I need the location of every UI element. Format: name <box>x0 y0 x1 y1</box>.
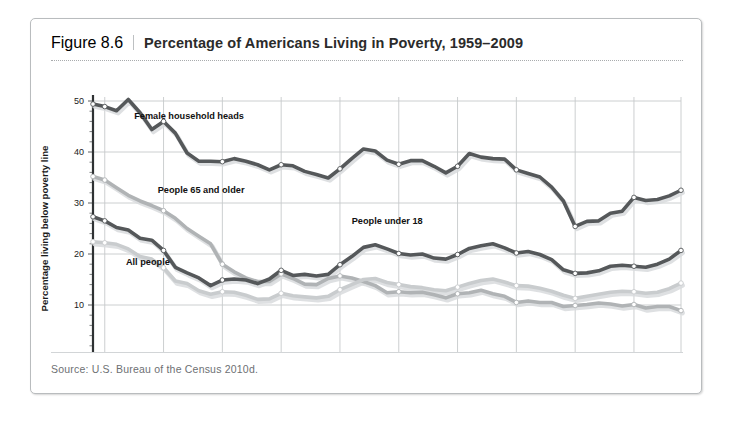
series-marker <box>455 252 460 257</box>
y-tick-label: 40 <box>74 147 84 157</box>
series-marker <box>220 262 225 267</box>
series-marker <box>632 195 637 200</box>
figure-card: Figure 8.6 Percentage of Americans Livin… <box>30 18 702 394</box>
y-axis-title: Percentage living below poverty line <box>39 146 50 312</box>
series-marker <box>279 162 284 167</box>
series-marker <box>455 285 460 290</box>
header-divider <box>133 35 134 50</box>
series-marker <box>338 262 343 267</box>
series-marker <box>279 291 284 296</box>
series-shadow <box>95 102 683 229</box>
series-marker <box>679 188 684 193</box>
series-marker <box>679 308 684 313</box>
y-tick-label: 50 <box>74 96 84 106</box>
series-label: Female household heads <box>134 111 244 121</box>
series-line <box>93 176 681 310</box>
series-marker <box>455 164 460 169</box>
chart-svg: Female household headsPeople 65 and olde… <box>31 67 703 352</box>
series-marker <box>338 287 343 292</box>
series-label: People under 18 <box>352 216 423 226</box>
source-note: Source: U.S. Bureau of the Census 2010d. <box>51 363 258 375</box>
series-marker <box>396 289 401 294</box>
series-marker <box>161 208 166 213</box>
figure-header: Figure 8.6 Percentage of Americans Livin… <box>51 33 523 52</box>
series-label: People 65 and older <box>158 185 245 195</box>
series-marker <box>220 278 225 283</box>
series-marker <box>632 289 637 294</box>
series-annotations: Female household headsPeople 65 and olde… <box>126 111 423 267</box>
series-marker <box>514 251 519 256</box>
series-marker <box>338 167 343 172</box>
series-marker <box>91 102 96 107</box>
series-marker <box>91 174 96 179</box>
series-marker <box>514 283 519 288</box>
series-marker <box>102 178 107 183</box>
header-dotted-rule <box>51 60 683 61</box>
series-marker <box>679 248 684 253</box>
series-marker <box>573 303 578 308</box>
series-marker <box>91 214 96 219</box>
series-marker <box>514 300 519 305</box>
series-paths <box>93 99 681 310</box>
series-marker <box>102 219 107 224</box>
series-marker <box>338 274 343 279</box>
y-tick-label: 30 <box>74 198 84 208</box>
series-marker <box>573 296 578 301</box>
series-marker <box>573 271 578 276</box>
page-title: Percentage of Americans Living in Povert… <box>144 35 523 51</box>
series-marker <box>102 240 107 245</box>
figure-number: Figure 8.6 <box>51 34 123 52</box>
series-label: All people <box>126 257 170 267</box>
footer-rule <box>51 352 683 353</box>
series-marker <box>161 248 166 253</box>
series-marker <box>573 224 578 229</box>
series-marker <box>632 264 637 269</box>
poverty-line-chart: Female household headsPeople 65 and olde… <box>31 67 703 352</box>
series-marker <box>632 302 637 307</box>
series-marker <box>102 104 107 109</box>
series-marker <box>279 268 284 273</box>
series-marker <box>220 289 225 294</box>
series-marker <box>396 282 401 287</box>
series-marker <box>396 162 401 167</box>
series-marker <box>679 281 684 286</box>
series-marker <box>455 291 460 296</box>
series-marker <box>514 168 519 173</box>
y-tick-label: 20 <box>74 249 84 259</box>
series-marker <box>91 239 96 244</box>
series-marker <box>220 159 225 164</box>
series-marker <box>396 251 401 256</box>
y-tick-label: 10 <box>74 300 84 310</box>
